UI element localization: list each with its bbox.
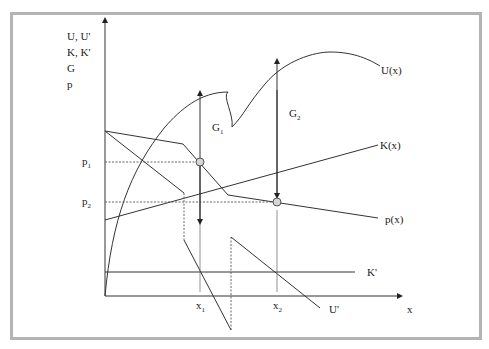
- x-axis-label: x: [407, 303, 413, 315]
- p1-label: p1: [82, 155, 92, 170]
- u-curve: [105, 52, 380, 296]
- g2-label: G2: [289, 107, 301, 122]
- y-axis-label-g: G: [67, 62, 75, 74]
- x2-label: x2: [273, 299, 283, 314]
- equilibrium-marker-1: [196, 158, 204, 166]
- equilibrium-marker-2: [273, 198, 281, 206]
- k-curve: [105, 145, 378, 220]
- k-curve-label: K(x): [380, 139, 401, 152]
- x1-label: x1: [196, 299, 206, 314]
- y-axis-label-k: K, K': [67, 46, 90, 58]
- u-curve-label: U(x): [381, 64, 402, 77]
- p-curve-label: p(x): [385, 213, 404, 226]
- economics-diagram: U, U' K, K' G p x U(x) K(x) p(x) K' U' G…: [0, 0, 489, 349]
- k-prime-label: K': [367, 266, 377, 278]
- y-axis-label-u: U, U': [67, 30, 90, 42]
- p-curve: [105, 131, 378, 218]
- p2-label: p2: [82, 195, 92, 210]
- u-prime-segment-2: [184, 240, 231, 330]
- y-axis-label-p: p: [67, 78, 73, 90]
- g1-label: G1: [212, 121, 224, 136]
- u-prime-label: U': [329, 303, 339, 315]
